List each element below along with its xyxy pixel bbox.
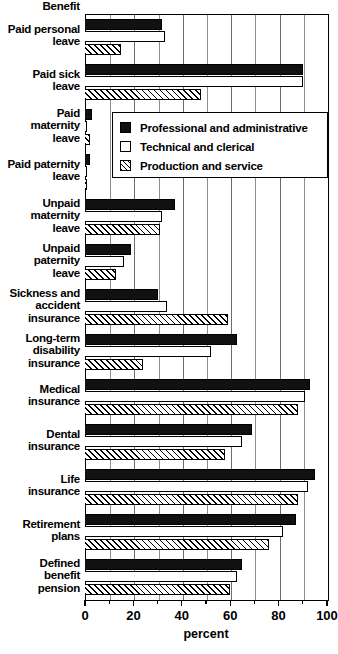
bar-0-series-0: [85, 19, 162, 30]
bar-0-series-1: [85, 31, 165, 42]
bar-4-series-1: [85, 211, 162, 222]
x-tick-50: [205, 600, 206, 604]
bar-3-series-2: [85, 179, 87, 190]
bar-1-series-2: [85, 89, 201, 100]
bar-1-series-1: [85, 76, 303, 87]
bar-12-series-1: [85, 571, 237, 582]
legend-label-technical: Technical and clerical: [140, 141, 254, 153]
bar-9-series-0: [85, 424, 252, 435]
bar-9-series-2: [85, 449, 225, 460]
category-label-6: Sickness andaccidentinsurance: [0, 287, 80, 325]
bar-2-series-2: [85, 134, 90, 145]
category-label-7: Long-termdisabilityinsurance: [0, 332, 80, 370]
category-label-2: Paidmaternityleave: [0, 107, 80, 145]
x-tick-70: [254, 600, 255, 604]
bar-8-series-0: [85, 379, 310, 390]
x-tick-40: [181, 600, 182, 606]
bar-8-series-2: [85, 404, 298, 415]
x-tick-label-60: 60: [208, 608, 252, 623]
x-tick-90: [302, 600, 303, 604]
category-label-4: Unpaidmaternityleave: [0, 197, 80, 235]
legend-item-professional: Professional and administrative: [120, 118, 327, 137]
gridline-40: [183, 15, 184, 600]
category-label-0: Paid personalleave: [0, 23, 80, 48]
bar-6-series-1: [85, 301, 167, 312]
bar-7-series-0: [85, 334, 237, 345]
bar-10-series-0: [85, 469, 315, 480]
x-tick-30: [157, 600, 158, 604]
category-label-3: Paid paternityleave: [0, 158, 80, 183]
legend-item-production: Production and service: [120, 156, 327, 175]
category-label-10: Lifeinsurance: [0, 473, 80, 498]
bar-2-series-0: [85, 109, 92, 120]
bar-3-series-0: [85, 154, 90, 165]
bar-10-series-1: [85, 481, 308, 492]
category-label-1: Paid sickleave: [0, 68, 80, 93]
legend-swatch-open-white-icon: [120, 141, 131, 152]
bar-5-series-0: [85, 244, 131, 255]
bar-3-series-1: [85, 166, 87, 177]
legend-item-technical: Technical and clerical: [120, 137, 327, 156]
x-tick-0: [84, 600, 85, 606]
x-tick-label-100: 100: [305, 608, 338, 623]
bar-7-series-1: [85, 346, 211, 357]
x-tick-label-0: 0: [63, 608, 107, 623]
x-tick-60: [230, 600, 231, 606]
x-tick-label-40: 40: [160, 608, 204, 623]
gridline-60: [231, 15, 232, 600]
gridline-70: [255, 15, 256, 600]
bar-9-series-1: [85, 436, 242, 447]
bar-11-series-2: [85, 539, 269, 550]
bar-7-series-2: [85, 359, 143, 370]
category-label-9: Dentalinsurance: [0, 428, 80, 453]
bar-4-series-0: [85, 199, 175, 210]
bar-11-series-1: [85, 526, 283, 537]
legend-swatch-hatched-icon: [120, 160, 131, 171]
x-tick-label-20: 20: [111, 608, 155, 623]
bar-6-series-0: [85, 289, 158, 300]
bar-11-series-0: [85, 514, 296, 525]
category-label-11: Retirementplans: [0, 518, 80, 543]
category-label-5: Unpaidpaternityleave: [0, 242, 80, 280]
bar-2-series-1: [85, 121, 87, 132]
x-tick-100: [326, 600, 327, 606]
gridline-50: [207, 15, 208, 600]
x-tick-10: [109, 600, 110, 604]
x-axis-title: percent: [85, 627, 327, 641]
y-axis-title: Benefit: [0, 0, 80, 12]
legend-label-production: Production and service: [140, 160, 263, 172]
category-label-12: Definedbenefitpension: [0, 557, 80, 595]
bar-4-series-2: [85, 224, 160, 235]
gridline-80: [280, 15, 281, 600]
gridline-90: [304, 15, 305, 600]
bar-10-series-2: [85, 494, 298, 505]
bar-1-series-0: [85, 64, 303, 75]
chart-legend: Professional and administrative Technica…: [112, 112, 328, 178]
bar-0-series-2: [85, 44, 121, 55]
x-tick-80: [278, 600, 279, 606]
category-label-8: Medicalinsurance: [0, 383, 80, 408]
bar-5-series-2: [85, 269, 116, 280]
bar-8-series-1: [85, 391, 305, 402]
x-tick-20: [133, 600, 134, 606]
benefits-bar-chart: Benefit Paid personalleavePaid sickleave…: [0, 0, 338, 654]
legend-label-professional: Professional and administrative: [140, 122, 308, 134]
bar-12-series-2: [85, 584, 230, 595]
bar-12-series-0: [85, 559, 242, 570]
bar-5-series-1: [85, 256, 124, 267]
bar-6-series-2: [85, 314, 228, 325]
x-tick-label-80: 80: [257, 608, 301, 623]
legend-swatch-solid-black-icon: [120, 122, 131, 133]
